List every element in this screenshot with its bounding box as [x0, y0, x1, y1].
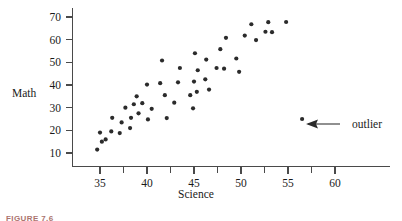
data-point [196, 68, 200, 72]
x-tick-label-35: 35 [94, 177, 106, 189]
data-point [95, 148, 99, 152]
data-point [165, 116, 169, 120]
data-point [160, 58, 164, 62]
y-tick-label-30: 30 [50, 102, 62, 114]
y-tick-label-40: 40 [50, 79, 62, 91]
x-axis-title: Science [178, 188, 214, 200]
outlier-annotation: outlier [306, 118, 382, 130]
data-point [146, 117, 150, 121]
data-point [110, 116, 114, 120]
data-point [207, 87, 211, 91]
data-point [192, 80, 196, 84]
data-point [243, 33, 247, 37]
data-point [249, 22, 253, 26]
annotation-label: outlier [352, 118, 382, 130]
data-point [129, 116, 133, 120]
data-point [158, 81, 162, 85]
x-axis-ticks: 354045505560 [94, 167, 341, 190]
y-tick-label-50: 50 [50, 56, 62, 68]
data-points [95, 20, 304, 152]
data-point [195, 90, 199, 94]
data-point [188, 93, 192, 97]
data-point [100, 140, 104, 144]
data-point [222, 67, 226, 71]
data-point [118, 131, 122, 135]
x-tick-label-40: 40 [141, 177, 153, 189]
data-point [237, 70, 241, 74]
data-point [234, 56, 238, 60]
data-point [128, 126, 132, 130]
scatter-plot: 10203040506070 354045505560 outlier Math… [0, 0, 402, 221]
data-point [123, 106, 127, 110]
data-point [203, 77, 207, 81]
data-point [176, 80, 180, 84]
data-point [254, 38, 258, 42]
data-point [104, 137, 108, 141]
data-point [120, 120, 124, 124]
y-axis-ticks: 10203040506070 [50, 11, 73, 159]
x-tick-label-55: 55 [282, 177, 294, 189]
figure-caption: FIGURE 7.6 [6, 214, 54, 221]
data-point [109, 129, 113, 133]
y-tick-label-20: 20 [50, 124, 62, 136]
x-tick-label-50: 50 [235, 177, 247, 189]
data-point [145, 82, 149, 86]
data-point [135, 94, 139, 98]
data-point [300, 117, 304, 121]
data-point [284, 20, 288, 24]
data-point [270, 30, 274, 34]
y-axis-title: Math [12, 87, 37, 99]
data-point [224, 36, 228, 40]
y-tick-label-10: 10 [50, 147, 62, 159]
data-point [204, 58, 208, 62]
data-point [193, 51, 197, 55]
data-point [178, 66, 182, 70]
data-point [136, 111, 140, 115]
data-point [191, 106, 195, 110]
y-tick-label-70: 70 [50, 11, 62, 23]
data-point [218, 47, 222, 51]
y-tick-label-60: 60 [50, 34, 62, 46]
data-point [263, 30, 267, 34]
figure-container: 10203040506070 354045505560 outlier Math… [0, 0, 402, 221]
data-point [214, 66, 218, 70]
data-point [172, 101, 176, 105]
data-point [163, 93, 167, 97]
data-point [150, 107, 154, 111]
data-point [140, 101, 144, 105]
data-point [132, 102, 136, 106]
data-point [98, 131, 102, 135]
x-tick-label-60: 60 [329, 177, 341, 189]
data-point [266, 20, 270, 24]
axes [73, 8, 391, 167]
